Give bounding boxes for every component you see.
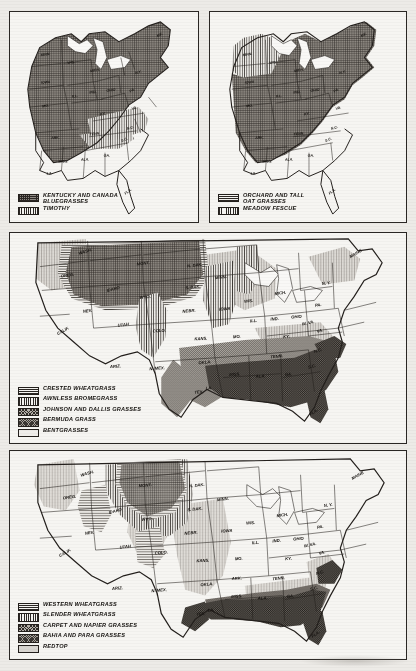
legend-label: WESTERN WHEATGRASS [43, 602, 117, 608]
svg-text:MISS.: MISS. [58, 159, 68, 164]
svg-text:ARK.: ARK. [254, 136, 264, 141]
svg-text:KY.: KY. [304, 112, 310, 117]
svg-text:ALA.: ALA. [255, 373, 266, 379]
legend-label: BERMUDA GRASS [43, 417, 96, 423]
map-panel-bluegrasses: MINN. WIS. MICH. IOWA MO. ILL. IND. OHIO… [9, 11, 199, 223]
svg-text:N. DAK.: N. DAK. [189, 482, 205, 489]
svg-text:FLA.: FLA. [328, 187, 337, 195]
svg-text:N.C.: N.C. [330, 125, 338, 131]
svg-text:W. VA.: W. VA. [303, 541, 316, 548]
legend-item: TIMOTHY [18, 206, 118, 216]
svg-text:ILL.: ILL. [72, 94, 79, 99]
legend-label: CRESTED WHEATGRASS [43, 386, 116, 392]
svg-text:LA.: LA. [207, 607, 214, 612]
legend-label: TIMOTHY [43, 206, 70, 212]
legend-label: JOHNSON AND DALLIS GRASSES [43, 407, 141, 413]
svg-text:IOWA: IOWA [221, 528, 232, 534]
svg-text:ILL.: ILL. [250, 318, 258, 323]
svg-text:MO.: MO. [246, 104, 253, 109]
legend-item: WESTERN WHEATGRASS [18, 602, 137, 612]
svg-text:IND.: IND. [270, 316, 279, 322]
map-panel-western-wheatgrass: WASH. OREG. IDAHO MONT. N. DAK. S. DAK. … [9, 450, 407, 660]
svg-text:ILL.: ILL. [276, 94, 283, 99]
swatch-horizontal-lines-icon [18, 603, 39, 612]
svg-text:MO.: MO. [42, 104, 49, 109]
legend-item: JOHNSON AND DALLIS GRASSES [18, 407, 141, 417]
svg-text:MAINE: MAINE [350, 470, 364, 481]
svg-text:OKLA.: OKLA. [200, 581, 213, 587]
svg-text:WIS.: WIS. [246, 520, 255, 526]
legend-item: ORCHARD AND TALL OAT GRASSES [218, 193, 304, 205]
svg-text:IOWA: IOWA [245, 80, 255, 85]
svg-text:ILL.: ILL. [252, 540, 260, 545]
svg-text:S.C.: S.C. [325, 137, 333, 143]
legend-label: CARPET AND NAPIER GRASSES [43, 623, 137, 629]
map-2-canvas: MINN. WIS. MICH. IOWA MO. ILL. IND. OHIO… [210, 12, 406, 222]
svg-text:ALA.: ALA. [257, 595, 268, 601]
svg-text:WIS.: WIS. [269, 60, 277, 65]
legend-item: BENTGRASSES [18, 428, 141, 438]
svg-text:IOWA: IOWA [219, 306, 230, 312]
svg-text:N. MEX.: N. MEX. [149, 365, 165, 371]
svg-text:TEX.: TEX. [196, 611, 206, 617]
svg-text:NEBR.: NEBR. [184, 530, 197, 536]
svg-text:OHIO: OHIO [310, 88, 320, 93]
legend-item: KENTUCKY AND CANADA BLUEGRASSES [18, 193, 118, 205]
svg-text:OHIO: OHIO [293, 536, 305, 542]
svg-text:MISS.: MISS. [229, 371, 241, 377]
map-2-legend: ORCHARD AND TALL OAT GRASSES MEADOW FESC… [218, 193, 304, 216]
svg-text:KY.: KY. [283, 334, 290, 340]
svg-text:COLO.: COLO. [154, 550, 168, 556]
svg-text:OHIO: OHIO [106, 88, 116, 93]
svg-text:GA.: GA. [287, 593, 295, 598]
legend-item: BERMUDA GRASS [18, 417, 141, 427]
map-2-svg: MINN. WIS. MICH. IOWA MO. ILL. IND. OHIO… [210, 12, 406, 222]
figure-page: MINN. WIS. MICH. IOWA MO. ILL. IND. OHIO… [0, 0, 416, 671]
swatch-cross-hatch-dark-icon [18, 194, 39, 203]
svg-text:N. Y.: N. Y. [321, 280, 331, 286]
svg-text:KANS.: KANS. [196, 558, 209, 564]
map-1-canvas: MINN. WIS. MICH. IOWA MO. ILL. IND. OHIO… [10, 12, 198, 222]
svg-text:OKLA.: OKLA. [198, 359, 211, 365]
svg-text:MINN.: MINN. [217, 496, 229, 502]
svg-text:IOWA: IOWA [41, 80, 51, 85]
map-panel-crested-wheatgrass: WASH. OREG. IDAHO MONT. N. DAK. S. DAK. … [9, 232, 407, 444]
map-1-legend: KENTUCKY AND CANADA BLUEGRASSES TIMOTHY [18, 193, 118, 216]
svg-text:ARIZ.: ARIZ. [111, 585, 123, 591]
swatch-horizontal-lines-icon [18, 387, 39, 396]
svg-text:CALIF.: CALIF. [56, 325, 70, 336]
legend-item: CRESTED WHEATGRASS [18, 386, 141, 396]
svg-text:IND.: IND. [272, 538, 281, 544]
map-1-svg: MINN. WIS. MICH. IOWA MO. ILL. IND. OHIO… [10, 12, 198, 222]
svg-text:NEBR.: NEBR. [182, 308, 195, 314]
legend-label: ORCHARD AND TALL OAT GRASSES [243, 193, 304, 205]
swatch-stipple-dark-icon [18, 624, 39, 633]
legend-item: REDTOP [18, 644, 137, 654]
legend-item: MEADOW FESCUE [218, 206, 304, 216]
svg-text:N. Y.: N. Y. [323, 502, 333, 508]
svg-text:PA.: PA. [317, 524, 324, 530]
svg-text:UTAH: UTAH [117, 321, 130, 327]
legend-item: AWNLESS BROMEGRASS [18, 396, 141, 406]
svg-text:IND.: IND. [293, 90, 300, 95]
swatch-vertical-lines-icon [18, 613, 39, 622]
svg-text:ARK.: ARK. [230, 575, 242, 581]
svg-text:IND.: IND. [89, 90, 96, 95]
scan-smudge [300, 655, 410, 667]
svg-text:ARK.: ARK. [50, 136, 60, 141]
svg-text:WIS.: WIS. [244, 298, 253, 304]
svg-text:ALA.: ALA. [284, 157, 293, 161]
legend-item: SLENDER WHEATGRASS [18, 612, 137, 622]
legend-label: BAHIA AND PARA GRASSES [43, 633, 125, 639]
legend-label: BENTGRASSES [43, 428, 88, 434]
legend-label: REDTOP [43, 644, 68, 650]
svg-text:GA.: GA. [104, 153, 111, 157]
map-panel-orchard-oat-grasses: MINN. WIS. MICH. IOWA MO. ILL. IND. OHIO… [209, 11, 407, 223]
swatch-horizontal-lines-icon [218, 194, 239, 203]
svg-text:NEV.: NEV. [83, 308, 93, 314]
swatch-vertical-lines-icon [218, 207, 239, 216]
svg-text:KY.: KY. [100, 112, 106, 117]
legend-label: KENTUCKY AND CANADA BLUEGRASSES [43, 193, 118, 205]
swatch-solid-mid-gray-icon [18, 634, 39, 643]
svg-text:OREG.: OREG. [62, 494, 76, 501]
